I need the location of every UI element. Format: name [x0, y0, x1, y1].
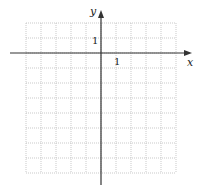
x-axis-label: x	[187, 56, 194, 69]
y-tick-label-1: 1	[92, 35, 98, 46]
y-axis-label: y	[89, 5, 97, 18]
coordinate-plane: x y 1 1	[0, 0, 205, 196]
y-axis-arrow-icon	[98, 10, 104, 18]
x-tick-label-1: 1	[114, 56, 120, 67]
